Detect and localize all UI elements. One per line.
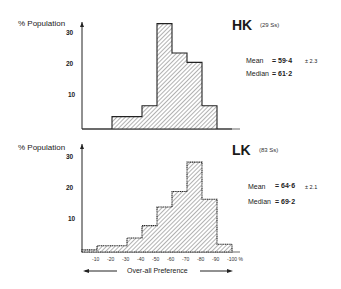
- lk-mean-value: = 64·6: [275, 182, 295, 189]
- lk-y-axis-label: % Population: [18, 143, 65, 152]
- lk-ytick-30: 30: [66, 153, 73, 160]
- x-tick-label: -50: [152, 256, 159, 262]
- x-tick-label: -80: [197, 256, 204, 262]
- x-tick-label: -30: [122, 256, 129, 262]
- lk-title: LK: [232, 142, 251, 158]
- lk-subject-count: (83 Ss): [259, 147, 278, 153]
- hk-median-label: Median: [246, 70, 269, 77]
- hk-ytick-30: 30: [66, 29, 73, 36]
- hk-histogram: [80, 22, 240, 129]
- lk-median-label: Median: [248, 198, 271, 205]
- x-tick-label: -60: [167, 256, 174, 262]
- lk-mean-label: Mean: [248, 183, 266, 190]
- hk-ytick-20: 20: [66, 60, 73, 67]
- x-tick-label: -40: [137, 256, 144, 262]
- x-tick-label: -20: [107, 256, 114, 262]
- hk-title: HK: [232, 17, 252, 33]
- lk-ytick-10: 10: [68, 215, 75, 222]
- hk-ytick-10: 10: [68, 91, 75, 98]
- lk-median-value: = 69·2: [275, 198, 295, 205]
- hk-mean-label: Mean: [246, 57, 264, 64]
- x-tick-label: -10: [92, 256, 99, 262]
- lk-ytick-20: 20: [66, 184, 73, 191]
- x-tick-label: -90: [212, 256, 219, 262]
- x-tick-label: -100 %: [227, 256, 243, 262]
- hk-y-axis-label: % Population: [18, 19, 65, 28]
- hk-median-value: = 61·2: [272, 70, 292, 77]
- lk-mean-error: ± 2.1: [305, 184, 317, 190]
- lk-histogram: [80, 144, 240, 252]
- hk-subject-count: (29 Ss): [260, 22, 279, 28]
- x-axis-label: Over-all Preference: [127, 267, 188, 274]
- hk-mean-value: = 59·4: [272, 57, 292, 64]
- hk-mean-error: ± 2.3: [305, 58, 317, 64]
- x-tick-label: -70: [182, 256, 189, 262]
